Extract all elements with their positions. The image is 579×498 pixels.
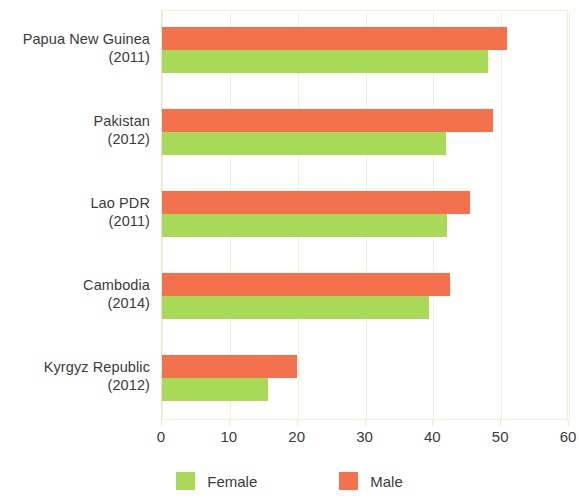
chart-row: Cambodia(2014): [0, 256, 579, 338]
category-year: (2011): [0, 212, 150, 230]
x-tick-label: 0: [141, 428, 181, 445]
x-tick-20: [297, 420, 298, 426]
bar-female: [162, 378, 268, 401]
bar-female: [162, 214, 447, 237]
category-year: (2012): [0, 130, 150, 148]
category-year: (2012): [0, 376, 150, 394]
chart-row: Papua New Guinea(2011): [0, 10, 579, 92]
chart-legend: FemaleMale: [0, 468, 579, 494]
bar-female: [162, 296, 429, 319]
x-axis-ticks: [0, 420, 579, 426]
chart-row: Pakistan(2012): [0, 92, 579, 174]
category-label: Lao PDR(2011): [0, 194, 150, 230]
bar-female: [162, 50, 488, 73]
bar-male: [162, 355, 297, 378]
category-name: Kyrgyz Republic: [44, 359, 150, 375]
category-year: (2014): [0, 294, 150, 312]
legend-swatch-icon: [339, 472, 358, 490]
chart-row: Kyrgyz Republic(2012): [0, 338, 579, 420]
bar-female: [162, 132, 446, 155]
x-tick-50: [500, 420, 501, 426]
bar-rows: Papua New Guinea(2011)Pakistan(2012)Lao …: [0, 10, 579, 420]
x-tick-label: 10: [209, 428, 249, 445]
bar-chart: Papua New Guinea(2011)Pakistan(2012)Lao …: [0, 0, 579, 498]
category-year: (2011): [0, 48, 150, 66]
category-label: Pakistan(2012): [0, 112, 150, 148]
legend-item-male[interactable]: Male: [339, 472, 403, 490]
x-tick-label: 50: [480, 428, 520, 445]
x-tick-40: [432, 420, 433, 426]
category-label: Papua New Guinea(2011): [0, 30, 150, 66]
legend-label: Female: [207, 473, 257, 490]
x-tick-label: 40: [412, 428, 452, 445]
category-label: Cambodia(2014): [0, 276, 150, 312]
category-name: Pakistan: [94, 113, 150, 129]
x-tick-10: [229, 420, 230, 426]
chart-row: Lao PDR(2011): [0, 174, 579, 256]
category-label: Kyrgyz Republic(2012): [0, 358, 150, 394]
bar-male: [162, 273, 450, 296]
x-tick-label: 20: [277, 428, 317, 445]
category-name: Lao PDR: [90, 195, 150, 211]
bar-male: [162, 27, 507, 50]
x-tick-label: 60: [548, 428, 579, 445]
bar-male: [162, 191, 470, 214]
bar-male: [162, 109, 493, 132]
x-axis-tick-labels: 0102030405060: [0, 428, 579, 450]
x-tick-60: [568, 420, 569, 426]
legend-item-female[interactable]: Female: [176, 472, 257, 490]
category-name: Papua New Guinea: [23, 31, 150, 47]
category-name: Cambodia: [83, 277, 150, 293]
x-tick-30: [365, 420, 366, 426]
legend-label: Male: [370, 473, 403, 490]
x-tick-label: 30: [345, 428, 385, 445]
x-tick-0: [161, 420, 162, 426]
legend-swatch-icon: [176, 472, 195, 490]
